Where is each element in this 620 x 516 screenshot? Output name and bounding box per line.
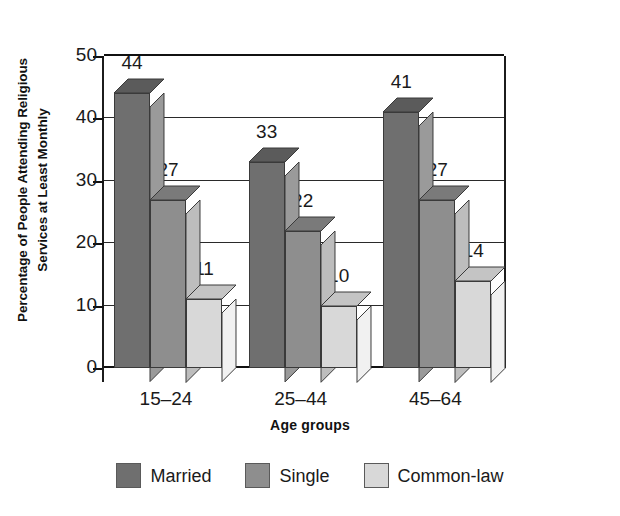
bar-married[interactable]: 44 — [114, 56, 150, 368]
legend-item[interactable]: Single — [245, 463, 329, 488]
bar-front-face — [150, 200, 186, 368]
legend: MarriedSingleCommon-law — [0, 463, 620, 488]
bar-column — [285, 231, 321, 368]
x-category-label: 25–44 — [247, 388, 355, 410]
bar-front-face — [114, 93, 150, 368]
bar-column — [114, 93, 150, 368]
bar-side-face — [222, 299, 236, 382]
legend-swatch-icon — [245, 463, 270, 488]
bar-married[interactable]: 41 — [383, 56, 419, 368]
y-tick-label: 30 — [76, 170, 97, 190]
bar-commonlaw[interactable]: 10 — [321, 56, 357, 368]
bar-column — [383, 112, 419, 368]
bar-column — [186, 299, 222, 368]
bar-group: 412714 — [383, 56, 491, 368]
bar-value-label: 33 — [256, 122, 277, 142]
legend-label: Single — [279, 466, 329, 486]
bar-column — [249, 162, 285, 368]
y-axis-title-line-1: Percentage of People Attending Religious — [13, 58, 33, 322]
bar-front-face — [249, 162, 285, 368]
legend-item[interactable]: Married — [116, 463, 211, 488]
bar-front-face — [321, 306, 357, 368]
legend-swatch-icon — [364, 463, 389, 488]
legend-label: Common-law — [398, 466, 504, 486]
bar-column — [455, 281, 491, 368]
bar-front-face — [419, 200, 455, 368]
bar-value-label: 41 — [391, 72, 412, 92]
legend-label: Married — [150, 466, 211, 486]
y-tick-label: 40 — [76, 107, 97, 127]
legend-swatch-icon — [116, 463, 141, 488]
bar-column — [150, 200, 186, 368]
y-tick-label: 50 — [76, 45, 97, 65]
bar-group: 332210 — [249, 56, 357, 368]
x-category-label: 45–64 — [381, 388, 489, 410]
bar-front-face — [186, 299, 222, 368]
bar-front-face — [383, 112, 419, 368]
bar-column — [321, 306, 357, 368]
y-tick-label: 20 — [76, 232, 97, 252]
y-axis-title-line-2: Services at Least Monthly — [33, 58, 53, 322]
x-category-label: 15–24 — [112, 388, 220, 410]
bar-column — [419, 200, 455, 368]
bar-chart: Percentage of People Attending Religious… — [0, 0, 620, 516]
bar-front-face — [285, 231, 321, 368]
bar-side-face — [491, 281, 505, 382]
y-axis-title: Percentage of People Attending Religious… — [0, 0, 66, 380]
y-tick-label: 10 — [76, 295, 97, 315]
bar-group: 442711 — [114, 56, 222, 368]
bar-side-face — [357, 306, 371, 382]
x-axis-title: Age groups — [0, 417, 620, 433]
legend-item[interactable]: Common-law — [364, 463, 504, 488]
bar-value-label: 44 — [121, 53, 142, 73]
bar-married[interactable]: 33 — [249, 56, 285, 368]
bar-front-face — [455, 281, 491, 368]
y-tick-label: 0 — [86, 357, 97, 377]
plot-area: 50403020100 442711332210412714 — [102, 56, 506, 368]
